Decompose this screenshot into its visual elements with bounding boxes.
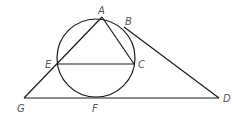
point-label-e: E: [45, 59, 52, 70]
point-label-f: F: [92, 103, 98, 114]
point-label-g: G: [17, 103, 25, 114]
point-label-d: D: [223, 93, 231, 104]
point-label-c: C: [138, 59, 145, 70]
point-label-b: B: [125, 16, 132, 27]
geometry-diagram: ABCEGFD: [0, 0, 237, 134]
point-label-a: A: [97, 5, 105, 16]
segment-ag: [24, 17, 102, 98]
circle: [57, 19, 135, 97]
